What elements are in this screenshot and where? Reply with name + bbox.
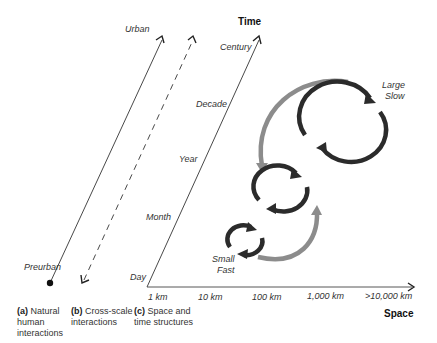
time-tick-century: Century <box>220 42 252 52</box>
revolt-arrow <box>258 205 322 259</box>
caption-c-line1: Space and <box>148 306 191 316</box>
caption-a-line2: human <box>17 317 45 327</box>
caption-c-line2: time structures <box>134 317 193 327</box>
natural-human-interactions-line <box>47 36 164 286</box>
time-tick-month: Month <box>146 212 171 222</box>
time-axis-title: Time <box>238 16 262 27</box>
middle-cycle <box>253 165 307 214</box>
panarchy-diagram: Urban Preurban Time Century Decade Year … <box>0 0 437 343</box>
preurban-label: Preurban <box>24 262 61 272</box>
space-tick-10km: 10 km <box>198 292 223 302</box>
large-label: Large <box>382 80 405 90</box>
arrowhead-up-icon <box>188 36 196 43</box>
arrowhead-up-icon <box>253 36 261 44</box>
time-axis <box>147 36 261 287</box>
space-axis-title: Space <box>384 308 414 319</box>
fast-label: Fast <box>217 265 235 275</box>
caption-b-line2: interactions <box>71 317 117 327</box>
arrowhead-down-icon <box>81 275 89 283</box>
space-tick-1000km: 1,000 km <box>307 291 345 301</box>
caption-b: (b) Cross-scale interactions <box>71 306 133 328</box>
space-tick-10000km: >10,000 km <box>365 291 413 301</box>
urban-label: Urban <box>125 24 150 34</box>
caption-c: (c) Space and time structures <box>134 306 193 328</box>
preurban-dot-icon <box>47 280 53 286</box>
caption-b-tag: (b) <box>71 306 83 316</box>
space-tick-1km: 1 km <box>148 292 168 302</box>
caption-a-tag: (a) <box>17 306 28 316</box>
caption-a-line3: interactions <box>17 328 63 338</box>
small-label: Small <box>212 254 236 264</box>
caption-a: (a) Natural human interactions <box>17 306 63 339</box>
time-tick-decade: Decade <box>196 99 227 109</box>
large-slow-cycle <box>299 82 386 162</box>
arrowhead-up-icon <box>311 205 322 215</box>
arrowhead-up-icon <box>156 36 164 43</box>
space-axis <box>147 283 414 291</box>
time-tick-day: Day <box>130 272 147 282</box>
time-tick-year: Year <box>179 154 199 164</box>
caption-a-line1: Natural <box>31 306 60 316</box>
caption-c-tag: (c) <box>134 306 145 316</box>
space-tick-100km: 100 km <box>252 292 282 302</box>
caption-b-line1: Cross-scale <box>85 306 133 316</box>
slow-label: Slow <box>385 91 405 101</box>
